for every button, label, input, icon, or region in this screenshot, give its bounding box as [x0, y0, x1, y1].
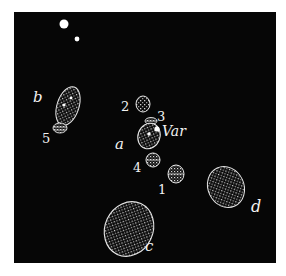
label-a: a [115, 135, 124, 153]
faint-star-icon [75, 37, 80, 42]
label-5: 5 [42, 131, 50, 146]
variable-star-icon [154, 126, 159, 131]
patch-d [201, 160, 251, 213]
patch-4 [146, 153, 160, 167]
patch-b [51, 84, 84, 129]
label-1: 1 [158, 182, 166, 197]
label-4: 4 [133, 160, 141, 175]
patch-1 [168, 165, 184, 183]
label-3: 3 [157, 109, 165, 124]
label-c: c [145, 237, 154, 255]
bright-star-icon [60, 20, 69, 29]
nebula-diagram: b 5 2 3 Var a 4 1 d c [0, 0, 286, 276]
label-d: d [251, 197, 261, 216]
label-b: b [33, 88, 43, 106]
patch-2 [136, 96, 150, 112]
label-2: 2 [121, 99, 129, 114]
patch-a [134, 120, 164, 152]
label-var: Var [162, 123, 187, 139]
patch-5 [53, 123, 67, 133]
